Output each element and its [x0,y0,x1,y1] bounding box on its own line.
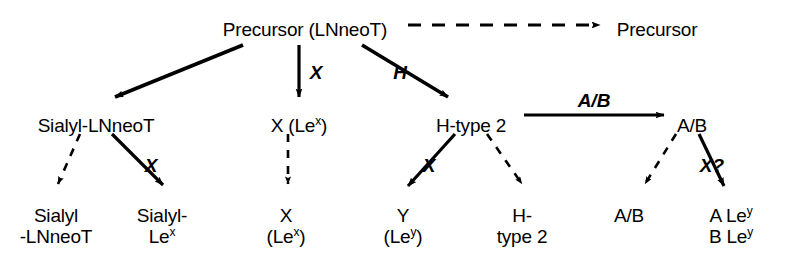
enzyme-label-x-sialyl: X [145,155,158,177]
node-label-post: ) [321,115,327,136]
node-label-line2: -LNneoT [20,226,93,247]
node-label-pre: Le [149,226,170,247]
enzyme-label-x-htype2: X [423,155,436,177]
edge-htype2-to-htype2-bottom [487,134,522,184]
enzyme-label-h-top: H [393,62,407,84]
node-label-line1: A Ley [709,205,753,226]
node-label-line1: X [267,205,306,226]
node-sialyl-lnneot-bottom: Sialyl -LNneoT [20,205,93,247]
node-x-lex-bottom: X (Lex) [267,205,306,247]
node-label-pre: X (Le [271,115,315,136]
node-label-line2: (Ley) [384,226,423,247]
node-label-line2: Lex [137,226,187,247]
node-ab-bottom: A/B [614,205,644,226]
node-label: Precursor (LNneoT) [223,19,387,40]
node-x-lex: X (Lex) [271,115,327,136]
edge-sialyl-to-sialyl-lnneot [58,134,80,184]
node-label: Precursor [617,19,698,40]
enzyme-label-x-top: X [310,62,323,84]
node-label: X (Lex) [271,115,327,136]
node-label: Sialyl-LNneoT [38,115,155,136]
node-h-type-2: H-type 2 [436,115,506,136]
enzyme-label-ab-horizontal: A/B [578,90,611,112]
pathway-diagram: Precursor : dashed horizontal --> Precur… [0,0,797,271]
node-label-line2: type 2 [497,226,548,247]
node-a-b-ley-bottom: A Ley B Ley [709,205,753,247]
node-label: A/B [614,205,644,226]
node-sialyl-lnneot: Sialyl-LNneoT [38,115,155,136]
node-label-line2: B Ley [709,226,753,247]
node-label-post: ) [416,226,422,247]
node-label-pre: (Le [384,226,411,247]
node-label: A/B [677,115,707,136]
node-label-post: ) [299,226,305,247]
node-label-superscript: y [747,225,753,239]
node-label-line1: H- [497,205,548,226]
node-sialyl-lex-bottom: Sialyl- Lex [137,205,187,247]
node-label-line1: Sialyl- [137,205,187,226]
node-precursor-right: Precursor [617,19,698,40]
node-label-line1: Sialyl [20,205,93,226]
node-label-line2: (Lex) [267,226,306,247]
enzyme-label-x-question: X? [700,155,724,177]
node-label: H-type 2 [436,115,506,136]
node-precursor-lnneot: Precursor (LNneoT) [223,19,387,40]
edge-precursor-to-sialyl [115,45,243,97]
node-h-type-2-bottom: H- type 2 [497,205,548,247]
node-label-pre: A Le [709,205,746,226]
node-label-line1: Y [384,205,423,226]
node-label-pre: (Le [267,226,294,247]
node-y-ley-bottom: Y (Ley) [384,205,423,247]
node-ab-middle: A/B [677,115,707,136]
node-label-superscript: y [747,204,753,218]
node-label-superscript: x [169,225,175,239]
node-label-pre: B Le [709,226,747,247]
edge-ab-to-ab-bottom [645,134,676,184]
